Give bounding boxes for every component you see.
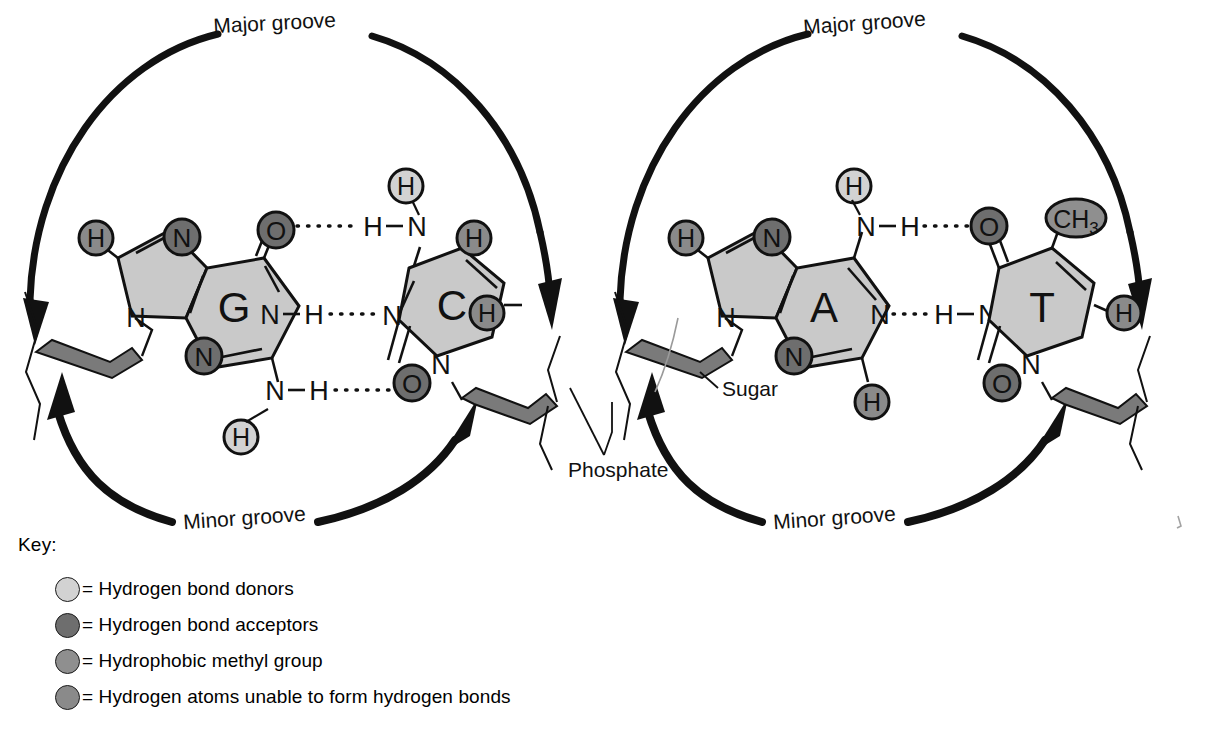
atom-n-g-n7: N — [173, 223, 192, 253]
label-minor-groove-left: Minor groove — [183, 502, 307, 533]
atom-h-g-amine: H — [232, 423, 250, 451]
atom-h-a-c8: H — [677, 224, 695, 252]
base-pair-gc: G H N O N N H N H — [25, 169, 560, 470]
atom-n-c-n4: N — [407, 212, 427, 242]
guanine-n2h: N H — [246, 376, 329, 422]
atom-h-a-c2h: H — [863, 388, 881, 416]
atom-h-c-nh: H — [363, 212, 383, 242]
atom-h-a-n6h: H — [900, 212, 920, 242]
atom-n-t-n1: N — [1021, 350, 1041, 380]
atom-h-c-c5h: H — [465, 224, 483, 252]
atom-n-g-n9: N — [126, 303, 146, 333]
base-letter-c: C — [437, 282, 467, 329]
atom-h-a-amine: H — [845, 172, 863, 200]
atom-h-t-n3h: H — [934, 300, 954, 330]
phosphate-leader — [570, 388, 612, 455]
base-pair-at: A H N N N H H N H — [570, 169, 1150, 470]
atom-n-g-n2: N — [265, 376, 285, 406]
atom-n-c-n3: N — [382, 301, 402, 331]
cytosine-amine: H N H — [363, 169, 427, 266]
atom-n-a-n1: N — [870, 300, 890, 330]
backbone-right-at — [1042, 336, 1150, 470]
atom-n-c-n1: N — [431, 350, 451, 380]
base-letter-g: G — [218, 284, 251, 331]
label-major-groove-left: Major groove — [213, 8, 337, 37]
base-letter-t: T — [1029, 284, 1055, 331]
atom-n-a-n6: N — [856, 212, 876, 242]
atom-h-c-c6h: H — [478, 299, 496, 327]
atom-o-t-o4: O — [979, 212, 999, 242]
atom-o-g-o6: O — [266, 216, 286, 246]
adenine-n1: N — [870, 300, 890, 330]
atom-n-a-n3: N — [785, 342, 804, 372]
label-major-groove-right: Major groove — [803, 7, 927, 38]
atom-n-a-n9: N — [716, 303, 736, 333]
atom-h-c-amine: H — [397, 172, 415, 200]
label-sugar: Sugar — [722, 377, 778, 400]
backbone-right-gc — [452, 336, 560, 470]
thymine-ring: T N O O CH3 H — [971, 199, 1141, 401]
atom-o-t-o2: O — [992, 369, 1012, 399]
base-pair-diagram: G H N O N N H N H — [0, 0, 1216, 756]
label-minor-groove-right: Minor groove — [773, 502, 897, 533]
adenine-n6h: N H — [852, 200, 920, 242]
atom-h-g-c8: H — [87, 224, 105, 252]
atom-h-t-c6h: H — [1115, 299, 1133, 327]
scan-artifact — [1177, 516, 1181, 528]
base-letter-a: A — [810, 284, 838, 331]
label-phosphate: Phosphate — [568, 458, 668, 481]
atom-n-g-n3: N — [195, 342, 214, 372]
atom-h-g-n1h: H — [304, 300, 324, 330]
atom-n-g-n1: N — [260, 300, 280, 330]
diagram-canvas: G H N O N N H N H — [0, 0, 1216, 756]
atom-n-a-n7: N — [763, 223, 782, 253]
cytosine-ring: C N N H H O — [382, 221, 522, 401]
atom-h-g-n2h: H — [309, 376, 329, 406]
atom-o-c-o2: O — [402, 369, 422, 399]
